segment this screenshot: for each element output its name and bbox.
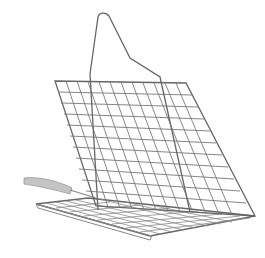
lower-basket: [36, 198, 255, 240]
product-photo: [0, 0, 265, 258]
grill-basket-illustration: [0, 0, 265, 258]
top-handle: [90, 13, 190, 212]
upright-grid: [55, 81, 255, 216]
